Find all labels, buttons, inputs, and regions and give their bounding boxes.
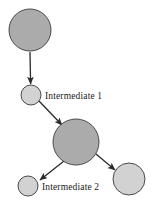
edge-source-to-intermediate1 xyxy=(30,52,31,84)
node-intermediate2[interactable] xyxy=(18,176,38,196)
label-intermediate1: Intermediate 1 xyxy=(45,91,102,101)
edge-hub-to-intermediate2 xyxy=(40,161,64,180)
diagram-canvas: Intermediate 1 Intermediate 2 xyxy=(0,0,154,205)
edge-intermediate1-to-hub xyxy=(39,101,62,125)
node-layer xyxy=(9,9,145,196)
label-intermediate2: Intermediate 2 xyxy=(42,182,99,192)
edge-hub-to-sink xyxy=(96,154,115,170)
graph-svg: Intermediate 1 Intermediate 2 xyxy=(0,0,154,205)
node-hub[interactable] xyxy=(53,119,99,165)
node-source[interactable] xyxy=(9,9,51,51)
node-intermediate1[interactable] xyxy=(21,85,41,105)
node-sink[interactable] xyxy=(113,163,145,195)
